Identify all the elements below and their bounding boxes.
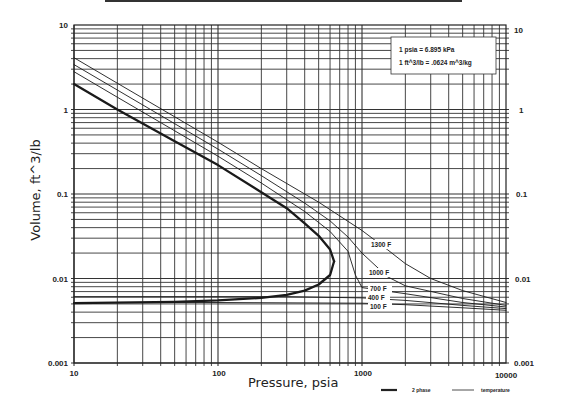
x-tick-10: 10 — [70, 369, 79, 378]
note-psia: 1 psia = 6.895 kPa — [399, 46, 455, 54]
y-right-tick-10: 10 — [514, 26, 523, 35]
pressure-volume-chart: 1 psia = 6.895 kPa 1 ft^3/lb = .0624 m^3… — [0, 0, 561, 416]
y-right-tick-0.01: 0.01 — [515, 275, 531, 284]
y-tick-0.001: 0.001 — [48, 359, 69, 368]
legend: 2 phase temperature — [381, 387, 510, 393]
y-axis-title: Volume, ft^3/lb — [28, 139, 43, 240]
y-axis-left-ticks: 10 1 0.1 0.01 0.001 — [48, 21, 69, 368]
x-tick-10000: 10000 — [495, 371, 518, 380]
label-100f: 100 F — [370, 303, 387, 310]
plot-grid — [71, 25, 509, 366]
unit-conversion-note: 1 psia = 6.895 kPa 1 ft^3/lb = .0624 m^3… — [391, 37, 496, 74]
legend-2phase-label: 2 phase — [412, 387, 431, 393]
y-right-tick-1: 1 — [519, 106, 524, 115]
y-right-tick-0.1: 0.1 — [516, 190, 528, 199]
x-tick-1000: 1000 — [354, 369, 372, 378]
y-axis-right-ticks: 10 1 0.1 0.01 0.001 — [514, 26, 535, 368]
legend-temperature-label: temperature — [481, 387, 510, 393]
y-tick-0.01: 0.01 — [52, 275, 68, 284]
label-400f: 400 F — [368, 294, 385, 301]
x-tick-100: 100 — [212, 369, 226, 378]
curve-700-f — [74, 72, 506, 307]
curve-1300-f — [74, 58, 506, 303]
label-700f: 700 F — [370, 285, 387, 292]
y-tick-0.1: 0.1 — [57, 190, 69, 199]
label-1000f: 1000 F — [369, 269, 389, 276]
y-right-tick-0.001: 0.001 — [514, 359, 535, 368]
curve-labels: 1300 F 1000 F 700 F 400 F 100 F — [366, 240, 395, 311]
label-1300f: 1300 F — [371, 241, 391, 248]
note-volume: 1 ft^3/lb = .0624 m^3/kg — [399, 59, 472, 67]
y-tick-10: 10 — [59, 21, 68, 30]
x-axis-title: Pressure, psia — [248, 375, 338, 390]
y-tick-1: 1 — [64, 106, 69, 115]
curves — [74, 58, 506, 311]
